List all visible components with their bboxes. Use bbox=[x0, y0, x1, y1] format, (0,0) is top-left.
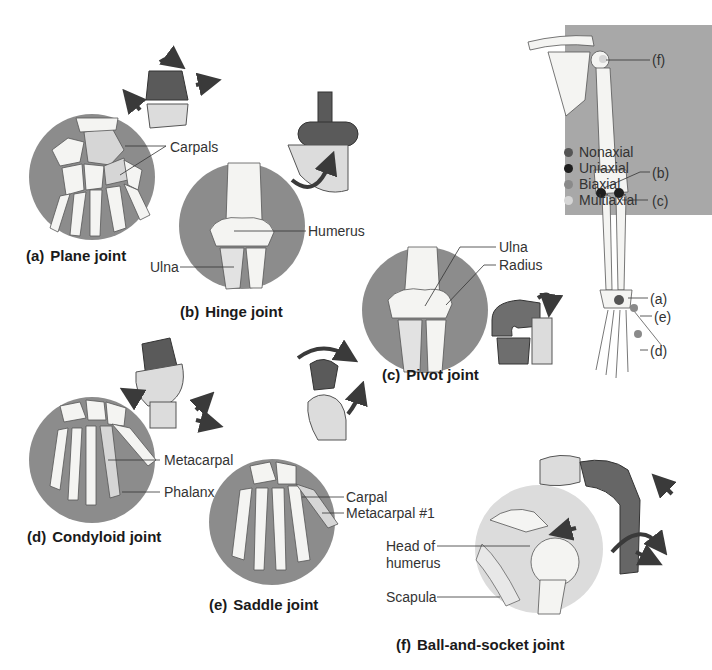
caption-title: Hinge joint bbox=[205, 303, 283, 320]
label-metacarpal: Metacarpal bbox=[164, 452, 233, 468]
caption-tag: (d) bbox=[27, 528, 46, 545]
caption-tag: (c) bbox=[382, 366, 400, 383]
caption-title: Ball-and-socket joint bbox=[417, 636, 565, 653]
caption-title: Saddle joint bbox=[233, 596, 318, 613]
hinge-joint-illustration bbox=[179, 92, 358, 289]
caption-title: Plane joint bbox=[50, 247, 126, 264]
label-ulna-b: Ulna bbox=[150, 259, 179, 275]
caption-tag: (b) bbox=[180, 303, 199, 320]
arm-marker-b: (b) bbox=[652, 165, 669, 181]
nonaxial-dot-icon bbox=[564, 148, 573, 157]
caption-condyloid-joint: (d)Condyloid joint bbox=[27, 528, 161, 545]
label-phalanx: Phalanx bbox=[164, 484, 215, 500]
label-carpal: Carpal bbox=[346, 489, 387, 505]
ball-socket-joint-illustration bbox=[437, 455, 672, 614]
label-metacarpal-1: Metacarpal #1 bbox=[346, 505, 435, 521]
legend-label: Nonaxial bbox=[579, 144, 633, 160]
caption-saddle-joint: (e)Saddle joint bbox=[209, 596, 318, 613]
biaxial-dot-icon bbox=[564, 180, 573, 189]
label-head-of: Head of bbox=[386, 538, 435, 554]
caption-ball-socket-joint: (f)Ball-and-socket joint bbox=[396, 636, 565, 653]
caption-tag: (a) bbox=[26, 247, 44, 264]
legend-label: Uniaxial bbox=[579, 160, 629, 176]
label-humerus: Humerus bbox=[308, 223, 365, 239]
caption-tag: (e) bbox=[209, 596, 227, 613]
label-scapula: Scapula bbox=[386, 589, 437, 605]
caption-hinge-joint: (b)Hinge joint bbox=[180, 303, 283, 320]
label-ulna-c: Ulna bbox=[499, 239, 528, 255]
caption-plane-joint: (a)Plane joint bbox=[26, 247, 126, 264]
arm-marker-d: (d) bbox=[650, 343, 667, 359]
legend-item-nonaxial: Nonaxial bbox=[569, 144, 637, 160]
legend-item-uniaxial: Uniaxial bbox=[569, 160, 637, 176]
axis-legend: Nonaxial Uniaxial Biaxial Multiaxial bbox=[569, 144, 637, 208]
legend-label: Biaxial bbox=[579, 176, 620, 192]
legend-item-multiaxial: Multiaxial bbox=[569, 192, 637, 208]
arm-marker-a: (a) bbox=[650, 291, 667, 307]
label-radius: Radius bbox=[499, 257, 543, 273]
multiaxial-dot-icon bbox=[564, 196, 573, 205]
label-humerus-f: humerus bbox=[386, 555, 440, 571]
arm-marker-c: (c) bbox=[652, 193, 668, 209]
legend-label: Multiaxial bbox=[579, 192, 637, 208]
caption-title: Pivot joint bbox=[406, 366, 479, 383]
caption-tag: (f) bbox=[396, 636, 411, 653]
arm-marker-e: (e) bbox=[654, 309, 671, 325]
legend-item-biaxial: Biaxial bbox=[569, 176, 637, 192]
caption-title: Condyloid joint bbox=[52, 528, 161, 545]
caption-pivot-joint: (c)Pivot joint bbox=[382, 366, 479, 383]
label-carpals: Carpals bbox=[170, 139, 218, 155]
uniaxial-dot-icon bbox=[564, 164, 573, 173]
arm-marker-f: (f) bbox=[652, 52, 665, 68]
